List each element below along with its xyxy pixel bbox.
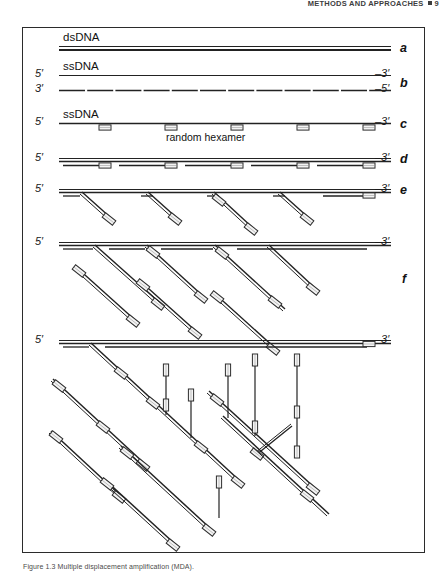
square-bullet-icon <box>428 1 432 5</box>
step-e-displaced-strands <box>80 192 314 235</box>
hyperbranch-right-diagonal <box>221 416 329 516</box>
step-e-terminal-hexamer <box>363 193 375 198</box>
label-random-hexamer: random hexamer <box>166 132 245 143</box>
end-label-5prime-e: 5′ <box>35 183 43 194</box>
end-label-5prime-f-lower: 5′ <box>35 334 43 345</box>
step-label-d: d <box>400 153 408 166</box>
mda-diagram <box>23 28 424 552</box>
displaced-strand <box>267 245 320 295</box>
step-label-b: b <box>400 77 408 90</box>
step-d-template <box>59 159 391 162</box>
hyperbranch-left-c <box>119 446 216 536</box>
end-label-5prime-b-bottom: –5′ <box>375 83 389 94</box>
end-label-3prime-f-upper: –3′ <box>375 236 389 247</box>
figure-frame: a b c d e f dsDNA ssDNA ssDNA random hex… <box>22 27 425 553</box>
step-a-dsdna <box>59 47 391 51</box>
displaced-strand <box>146 192 182 225</box>
label-ssdna-top: ssDNA <box>63 61 99 73</box>
hyperbranch-bottom-stub <box>216 476 221 518</box>
free-product <box>72 265 140 327</box>
step-label-a: a <box>400 42 407 55</box>
end-label-3prime-d: –3′ <box>375 152 389 163</box>
step-f-lower-template <box>59 341 391 348</box>
label-dsdna: dsDNA <box>63 32 99 44</box>
end-label-3prime-e: –3′ <box>375 183 389 194</box>
figure-caption: Figure 1.3 Multiple displacement amplifi… <box>23 562 423 571</box>
step-label-c: c <box>400 118 407 131</box>
hyperbranch-right <box>250 354 299 460</box>
end-label-3prime-f-lower: –3′ <box>375 334 389 345</box>
displaced-strand <box>278 192 314 225</box>
running-head: METHODS AND APPROACHES9 <box>308 0 439 8</box>
free-product <box>136 279 202 339</box>
end-label-3prime-b-bottom: 3′ <box>35 83 43 94</box>
displaced-strand <box>80 192 116 225</box>
step-c-hexamers <box>99 125 375 130</box>
step-e-template <box>59 190 391 193</box>
step-f-upper-displaced-strands <box>72 245 320 355</box>
sub-branch <box>252 354 257 436</box>
step-label-f: f <box>402 273 406 286</box>
end-label-5prime-b-top: 5′ <box>35 68 43 79</box>
step-label-e: e <box>400 184 407 197</box>
hyperbranch-center <box>207 354 320 495</box>
running-head-title: METHODS AND APPROACHES <box>308 0 424 8</box>
displaced-strand <box>212 192 258 235</box>
sub-branch <box>163 364 168 415</box>
hyperbranch-primary <box>89 343 245 488</box>
end-label-5prime-f-upper: 5′ <box>35 236 43 247</box>
label-ssdna-primed: ssDNA <box>63 109 99 121</box>
end-label-5prime-c: 5′ <box>35 116 43 127</box>
page-number: 9 <box>435 0 439 8</box>
hyperbranch-left-a <box>51 379 150 471</box>
sub-branch <box>188 389 193 438</box>
end-label-3prime-c: –3′ <box>375 116 389 127</box>
end-label-5prime-d: 5′ <box>35 152 43 163</box>
end-label-3prime-b-top: –3′ <box>375 68 389 79</box>
step-f-upper-template <box>59 243 391 246</box>
